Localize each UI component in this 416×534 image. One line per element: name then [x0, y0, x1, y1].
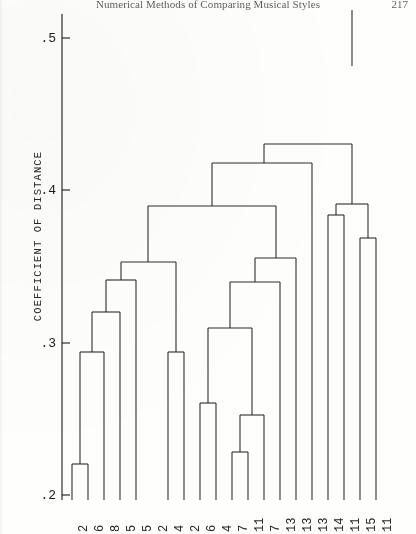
leaf-tick-label: 8 [109, 525, 123, 532]
leaf-tick-label: 13 [301, 518, 315, 532]
leaf-tick-label: 4 [221, 525, 235, 532]
leaf-tick-label: 6 [93, 525, 107, 532]
leaf-tick-label: 15 [365, 518, 379, 532]
leaf-tick-label: 5 [125, 525, 139, 532]
axis-layer [62, 14, 70, 500]
leaf-tick-label: 2 [77, 525, 91, 532]
leaf-tick-label: 2 [189, 525, 203, 532]
leaf-tick-label: 13 [317, 518, 331, 532]
leaf-tick-label: 13 [285, 518, 299, 532]
dendrogram-tree [72, 10, 376, 500]
leaf-tick-label: 2 [157, 525, 171, 532]
leaf-tick-label: 5 [141, 525, 155, 532]
leaf-tick-label: 7 [269, 525, 283, 532]
dendrogram-plot [0, 0, 416, 534]
leaf-tick-label: 4 [173, 525, 187, 532]
scanned-page: Numerical Methods of Comparing Musical S… [0, 0, 416, 534]
leaf-tick-label: 14 [333, 518, 347, 532]
leaf-tick-label: 11 [253, 518, 267, 532]
leaf-tick-label: 7 [237, 525, 251, 532]
leaf-tick-label: 11 [349, 518, 363, 532]
leaf-tick-label: 11 [381, 518, 395, 532]
leaf-tick-label: 6 [205, 525, 219, 532]
